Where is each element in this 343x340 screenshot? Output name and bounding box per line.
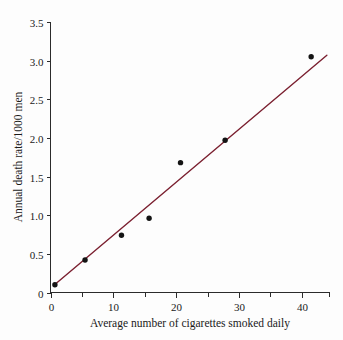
x-axis-tick-labels: 010203040 <box>49 301 309 313</box>
y-tick-label: 2.0 <box>30 133 44 145</box>
y-axis-title: Annual death rate/1000 men <box>12 91 24 222</box>
x-axis-ticks <box>52 293 303 298</box>
data-point <box>308 54 313 59</box>
data-point-group <box>52 54 314 287</box>
x-tick-label: 40 <box>297 301 309 313</box>
y-tick-label: 0.5 <box>30 249 44 261</box>
x-tick-label: 20 <box>171 301 183 313</box>
data-point <box>222 138 227 143</box>
y-tick-label: 3.0 <box>30 56 44 68</box>
data-point <box>52 282 57 287</box>
data-point <box>82 257 87 262</box>
plot-canvas: 00.51.01.52.02.53.03.5 010203040 Average… <box>0 0 343 340</box>
x-axis-title: Average number of cigarettes smoked dail… <box>90 317 290 330</box>
y-axis-tick-labels: 00.51.01.52.02.53.03.5 <box>30 17 44 300</box>
y-tick-label: 0 <box>38 288 44 300</box>
regression-line <box>54 55 327 285</box>
y-axis-ticks <box>47 23 51 294</box>
data-point <box>178 160 183 165</box>
y-tick-label: 2.5 <box>30 94 44 106</box>
data-point <box>146 216 151 221</box>
x-tick-label: 10 <box>108 301 120 313</box>
x-tick-label: 0 <box>49 301 55 313</box>
x-tick-label: 30 <box>234 301 246 313</box>
data-point <box>119 233 124 238</box>
x-axis-minor-ticks <box>83 293 330 297</box>
y-tick-label: 1.5 <box>30 172 44 184</box>
scatter-plot-figure: 00.51.01.52.02.53.03.5 010203040 Average… <box>0 0 343 340</box>
y-tick-label: 1.0 <box>30 210 44 222</box>
y-tick-label: 3.5 <box>30 17 44 29</box>
